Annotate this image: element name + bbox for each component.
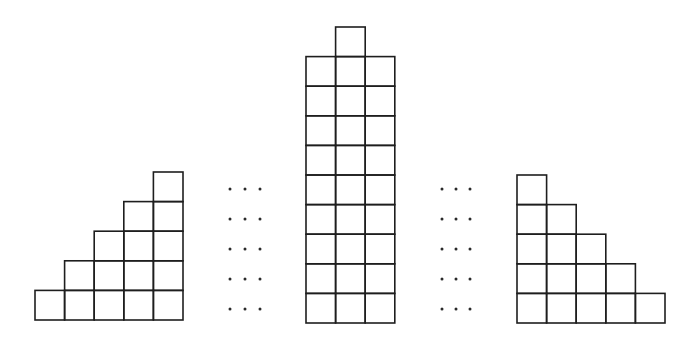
ellipsis-dot	[455, 278, 458, 281]
grid-cell	[365, 116, 395, 146]
grid-cell	[94, 290, 124, 320]
grid-cell	[365, 175, 395, 205]
grid-cell	[365, 293, 395, 323]
ellipsis-dot	[469, 278, 472, 281]
grid-cell	[517, 205, 547, 235]
grid-cell	[306, 264, 336, 294]
ellipsis-dot	[259, 218, 262, 221]
ellipsis-dots	[229, 188, 472, 311]
cell-figures	[35, 27, 665, 323]
ellipsis-dot	[455, 308, 458, 311]
grid-cell	[306, 293, 336, 323]
ellipsis-dot	[469, 218, 472, 221]
left-staircase	[35, 172, 183, 320]
ellipsis-dot	[441, 278, 444, 281]
ellipsis-dot	[259, 278, 262, 281]
grid-cell	[336, 27, 366, 57]
grid-cell	[336, 293, 366, 323]
grid-cell	[336, 175, 366, 205]
grid-cell	[365, 57, 395, 87]
ellipsis-dot	[441, 188, 444, 191]
ellipsis-dot	[259, 188, 262, 191]
ellipsis-dot	[244, 278, 247, 281]
grid-cell	[124, 231, 154, 261]
ellipsis-dot	[441, 248, 444, 251]
grid-cell	[153, 261, 183, 291]
grid-cell	[547, 264, 577, 294]
ellipsis-dot	[229, 278, 232, 281]
grid-cell	[306, 175, 336, 205]
ellipsis-dot	[229, 218, 232, 221]
ellipsis-dot	[455, 218, 458, 221]
ellipsis-dot	[244, 188, 247, 191]
young-diagram-figure	[0, 0, 698, 342]
grid-cell	[336, 57, 366, 87]
ellipsis-dot	[244, 308, 247, 311]
grid-cell	[517, 234, 547, 264]
grid-cell	[124, 202, 154, 232]
left-ellipsis	[229, 188, 262, 311]
grid-cell	[576, 234, 606, 264]
grid-cell	[306, 205, 336, 235]
grid-cell	[306, 86, 336, 116]
grid-cell	[35, 290, 65, 320]
grid-cell	[517, 175, 547, 205]
ellipsis-dot	[244, 248, 247, 251]
grid-cell	[65, 290, 95, 320]
ellipsis-dot	[469, 308, 472, 311]
ellipsis-dot	[259, 308, 262, 311]
grid-cell	[336, 234, 366, 264]
grid-cell	[336, 264, 366, 294]
grid-cell	[547, 293, 577, 323]
grid-cell	[336, 116, 366, 146]
grid-cell	[306, 234, 336, 264]
ellipsis-dot	[229, 248, 232, 251]
grid-cell	[124, 290, 154, 320]
ellipsis-dot	[229, 188, 232, 191]
grid-cell	[153, 202, 183, 232]
grid-cell	[606, 264, 636, 294]
grid-cell	[306, 57, 336, 87]
grid-cell	[336, 86, 366, 116]
grid-cell	[336, 145, 366, 175]
grid-cell	[306, 116, 336, 146]
ellipsis-dot	[244, 218, 247, 221]
ellipsis-dot	[455, 188, 458, 191]
grid-cell	[517, 264, 547, 294]
ellipsis-dot	[469, 248, 472, 251]
right-staircase	[517, 175, 665, 323]
grid-cell	[153, 172, 183, 202]
grid-cell	[365, 86, 395, 116]
grid-cell	[517, 293, 547, 323]
center-block	[306, 27, 395, 323]
grid-cell	[365, 205, 395, 235]
ellipsis-dot	[441, 218, 444, 221]
grid-cell	[153, 231, 183, 261]
grid-cell	[94, 231, 124, 261]
grid-cell	[306, 145, 336, 175]
ellipsis-dot	[229, 308, 232, 311]
grid-cell	[576, 264, 606, 294]
grid-cell	[635, 293, 665, 323]
ellipsis-dot	[455, 248, 458, 251]
grid-cell	[365, 234, 395, 264]
grid-cell	[576, 293, 606, 323]
grid-cell	[65, 261, 95, 291]
ellipsis-dot	[259, 248, 262, 251]
grid-cell	[547, 234, 577, 264]
right-ellipsis	[441, 188, 472, 311]
ellipsis-dot	[441, 308, 444, 311]
grid-cell	[124, 261, 154, 291]
ellipsis-dot	[469, 188, 472, 191]
grid-cell	[153, 290, 183, 320]
grid-cell	[606, 293, 636, 323]
grid-cell	[365, 145, 395, 175]
grid-cell	[336, 205, 366, 235]
grid-cell	[365, 264, 395, 294]
grid-cell	[94, 261, 124, 291]
grid-cell	[547, 205, 577, 235]
